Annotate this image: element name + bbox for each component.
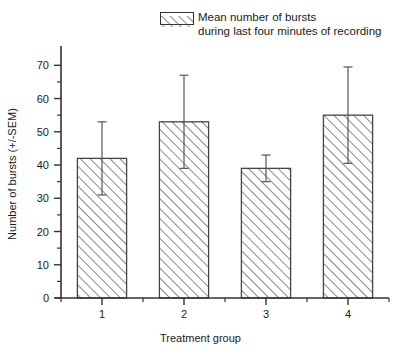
x-tick-label: 2	[181, 308, 187, 320]
x-tick-label: 4	[345, 308, 351, 320]
y-tick-label: 50	[23, 126, 49, 138]
y-axis-title: Number of bursts (+/-SEM)	[6, 84, 18, 264]
y-tick-label: 70	[23, 59, 49, 71]
bar-chart-figure: Mean number of bursts during last four m…	[0, 0, 401, 358]
chart-canvas	[0, 0, 401, 358]
y-tick-label: 0	[23, 292, 49, 304]
x-axis-title: Treatment group	[0, 332, 401, 344]
y-tick-label: 20	[23, 226, 49, 238]
y-tick-label: 10	[23, 259, 49, 271]
bar	[241, 168, 290, 298]
x-tick-label: 1	[99, 308, 105, 320]
x-tick-label: 3	[263, 308, 269, 320]
plot-area: 010203040506070 1234 Number of bursts (+…	[0, 0, 401, 358]
error-bars-group	[98, 67, 353, 195]
y-tick-label: 30	[23, 192, 49, 204]
bars-group	[77, 115, 372, 298]
y-tick-label: 40	[23, 159, 49, 171]
y-tick-label: 60	[23, 93, 49, 105]
